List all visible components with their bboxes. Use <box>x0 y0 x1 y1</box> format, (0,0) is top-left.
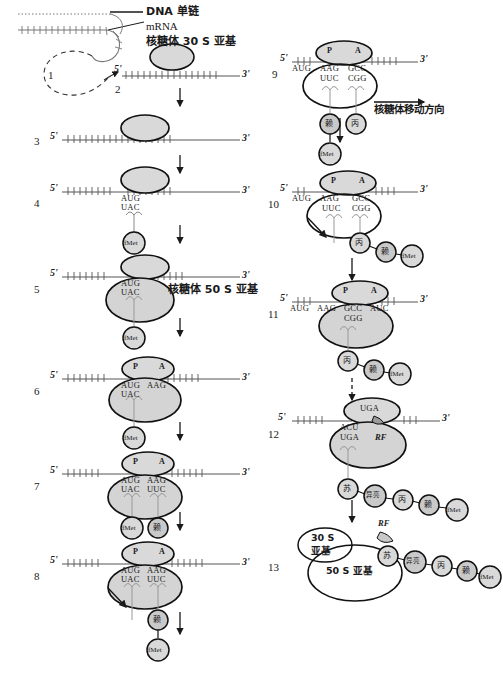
three-prime-11: 3' <box>420 294 428 304</box>
aa-lys-9: 赖 <box>325 120 333 128</box>
a-site-11: A <box>371 287 377 295</box>
aa-fmet-6: fMet <box>124 435 138 442</box>
aa-ala-11: 丙 <box>343 357 351 365</box>
three-prime-2: 3' <box>242 69 250 79</box>
aa-ala-13: 丙 <box>437 562 445 570</box>
p-site-10: P <box>331 177 336 185</box>
codon-10-3: GCC <box>352 194 370 203</box>
codon-12-acu: ACU <box>340 423 359 432</box>
five-prime-10: 5' <box>280 183 288 193</box>
codon-9-3: GCC <box>348 64 366 73</box>
anticodon-7-1: UAC <box>121 485 140 494</box>
aa-ala-10: 丙 <box>355 239 363 247</box>
aa-ala-9: 丙 <box>351 120 359 128</box>
aa-fmet-10: fMet <box>402 253 416 260</box>
legend-30s-label: 核糖体 30 S 亚基 <box>146 36 236 47</box>
peptide-bond-arrow-10 <box>308 218 326 237</box>
p-site-11: P <box>343 287 348 295</box>
step-number-2: 2 <box>115 84 121 95</box>
step4-group <box>62 167 240 254</box>
aa-ala-12: 丙 <box>398 496 406 504</box>
three-prime-12: 3' <box>442 413 450 423</box>
anticodon-10-1: UUC <box>322 204 341 213</box>
a-site-9: A <box>355 47 361 55</box>
three-prime-9: 3' <box>420 54 428 64</box>
free-30s-label-line1: 30 S <box>311 533 334 543</box>
aa-ile-12: 异亮 <box>366 492 380 499</box>
codon-9-2: AAG <box>320 64 339 73</box>
legend-dna-label: DNA 单链 <box>146 6 199 17</box>
step-number-3: 3 <box>34 136 40 147</box>
step-number-1: 1 <box>48 70 54 81</box>
anticodon-5-1: UAC <box>121 288 140 297</box>
aa-ile-13: 异亮 <box>406 558 420 565</box>
aa-fmet-7: fMet <box>122 525 136 532</box>
five-prime-9: 5' <box>280 53 288 63</box>
codon-10-1: AUG <box>292 194 311 203</box>
legend-movement-label: 核糖体移动方向 <box>374 104 444 115</box>
aa-fmet-4: fMet <box>124 240 138 247</box>
a-site-8: A <box>159 548 165 556</box>
p-site-8: P <box>133 548 138 556</box>
codon-10-2: AAG <box>320 194 339 203</box>
aa-fmet-12: fMet <box>447 507 461 514</box>
five-prime-3: 5' <box>50 131 58 141</box>
step7-group <box>62 452 240 539</box>
aa-lys-8: 赖 <box>153 616 161 624</box>
step-number-6: 6 <box>34 386 40 397</box>
five-prime-7: 5' <box>50 465 58 475</box>
five-prime-8: 5' <box>50 555 58 565</box>
release-factor-label-12: RF <box>375 433 386 442</box>
aa-lys-10: 赖 <box>381 248 389 256</box>
five-prime-11: 5' <box>280 293 288 303</box>
anticodon-12-uga: UGA <box>340 433 359 442</box>
codon-9-1: AUG <box>292 64 311 73</box>
aa-fmet-9: fMet <box>320 151 334 158</box>
aa-lys-7: 赖 <box>153 524 161 532</box>
step-number-13: 13 <box>268 562 279 573</box>
aa-fmet-8: fMet <box>148 647 162 654</box>
a-site-6: A <box>159 363 165 371</box>
anticodon-7-2: UUC <box>147 485 166 494</box>
step8-group <box>62 542 240 661</box>
anticodon-10-2: CGG <box>352 204 371 213</box>
five-prime-4: 5' <box>50 183 58 193</box>
three-prime-5: 3' <box>242 270 250 280</box>
legend-50s-label: 核糖体 50 S 亚基 <box>168 284 258 295</box>
anticodon-9-1: UUC <box>320 74 339 83</box>
codon-11-4: AUC <box>370 304 389 313</box>
aa-lys-12: 赖 <box>424 501 432 509</box>
three-prime-7: 3' <box>242 467 250 477</box>
step5-group <box>62 255 240 349</box>
step-number-12: 12 <box>268 429 279 440</box>
anticodon-11-1: CGG <box>344 314 363 323</box>
three-prime-4: 3' <box>242 185 250 195</box>
step-number-10: 10 <box>268 199 279 210</box>
anticodon-8-1: UAC <box>121 575 140 584</box>
aa-lys-11: 赖 <box>369 366 377 374</box>
anticodon-6-1: UAC <box>121 390 140 399</box>
step-number-5: 5 <box>34 284 40 295</box>
codon-12-stop: UGA <box>360 404 379 413</box>
p-site-7: P <box>133 458 138 466</box>
mrna-leader <box>108 22 144 30</box>
aa-lys-13: 赖 <box>462 567 470 575</box>
codon-11-3: GCC <box>344 304 362 313</box>
aa-thr-12: 苏 <box>343 485 351 493</box>
step3-group <box>62 115 240 143</box>
step1-mrna-strand <box>18 26 122 62</box>
five-prime-2: 5' <box>114 64 122 74</box>
five-prime-12: 5' <box>278 412 286 422</box>
anticodon-4-1: UAC <box>121 203 140 212</box>
a-site-10: A <box>359 177 365 185</box>
three-prime-3: 3' <box>242 133 250 143</box>
anticodon-8-2: UUC <box>147 575 166 584</box>
three-prime-8: 3' <box>242 557 250 567</box>
anticodon-9-2: CGG <box>348 74 367 83</box>
p-site-6: P <box>133 363 138 371</box>
step-number-9: 9 <box>272 69 278 80</box>
aa-fmet-11: fMet <box>390 371 404 378</box>
step-number-11: 11 <box>268 309 279 320</box>
three-prime-6: 3' <box>242 372 250 382</box>
translation-diagram: DNA 单链 mRNA 核糖体 30 S 亚基 核糖体 50 S 亚基 核糖体移… <box>0 0 503 674</box>
